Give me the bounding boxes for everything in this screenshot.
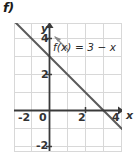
y-axis-label: y — [41, 23, 48, 34]
x-tick-label-4: 4 — [112, 112, 120, 123]
y-tick-label-minus2: -2 — [36, 140, 48, 151]
x-tick-label-minus2: -2 — [18, 112, 30, 123]
y-tick-label-2: 2 — [41, 69, 49, 80]
function-equation-label: f(x) = 3 − x — [53, 41, 116, 53]
x-axis-label: x — [126, 110, 133, 121]
x-tick-label-2: 2 — [78, 112, 86, 123]
x-tick-label-0: 0 — [39, 112, 47, 123]
function-graph-figure: f) — [0, 0, 135, 163]
part-label: f) — [3, 1, 14, 15]
